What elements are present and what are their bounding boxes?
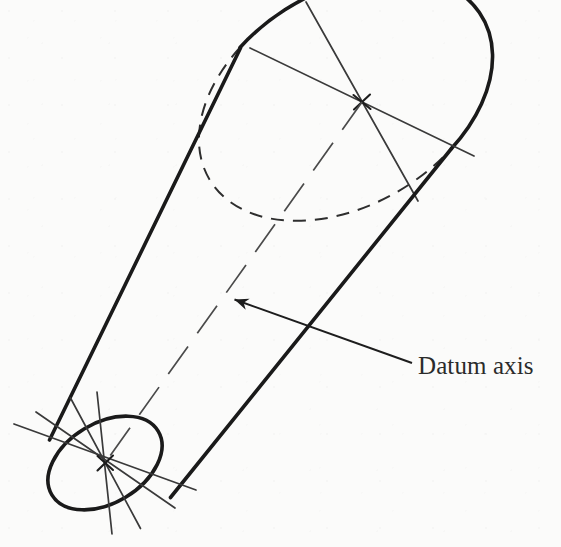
technical-drawing-svg [0, 0, 561, 547]
cylinder-right-edge [171, 149, 452, 498]
cylinder-left-edge [50, 48, 241, 440]
datum-axis-label: Datum axis [418, 353, 534, 378]
drawing-canvas: Datum axis [0, 0, 561, 547]
top-ellipse-visible-arc [240, 0, 493, 148]
datum-axis-centerline [105, 102, 362, 463]
